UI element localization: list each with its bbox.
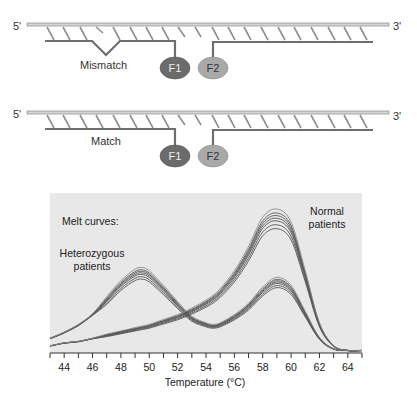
f1-label: F1 — [169, 62, 182, 74]
x-tick-label: 50 — [143, 361, 155, 373]
three-prime-label: 3' — [393, 110, 401, 122]
normal-annotation-line1: Normal — [310, 205, 344, 217]
x-tick-label: 46 — [87, 361, 99, 373]
mismatch-label: Mismatch — [80, 59, 127, 71]
x-tick-label: 48 — [115, 361, 127, 373]
three-prime-label: 3' — [393, 20, 401, 32]
match-label: Match — [91, 135, 121, 147]
x-tick-label: 62 — [314, 361, 326, 373]
melt-curve-svg: 4446485052545658606264 Melt curves: Hete… — [0, 175, 417, 405]
x-tick-label: 52 — [172, 361, 184, 373]
x-tick-label: 44 — [58, 361, 70, 373]
base-pair-hatches — [47, 27, 367, 40]
f2-label: F2 — [207, 150, 220, 162]
normal-annotation-line2: patients — [309, 218, 346, 230]
target-strand — [27, 23, 389, 26]
probe-strand-1-with-mismatch — [45, 41, 175, 57]
probe-strand-2 — [213, 42, 373, 57]
base-pair-hatches — [47, 115, 367, 128]
x-axis-label: Temperature (°C) — [165, 376, 246, 388]
x-tick-label: 58 — [257, 361, 269, 373]
x-tick-label: 60 — [285, 361, 297, 373]
heterozygous-annotation-line1: Heterozygous — [60, 247, 125, 259]
mismatch-strand-svg: 5' 3' Mismatch F1 F2 — [0, 0, 417, 100]
probe-strand-2 — [213, 130, 373, 145]
f1-label: F1 — [169, 150, 182, 162]
five-prime-label: 5' — [13, 108, 21, 120]
x-tick-label: 54 — [200, 361, 212, 373]
match-strand-svg: 5' 3' Match F1 F2 — [0, 95, 417, 175]
x-axis-ticks: 4446485052545658606264 — [50, 353, 362, 373]
f2-label: F2 — [207, 62, 220, 74]
x-tick-label: 64 — [342, 361, 354, 373]
melt-curve-chart: 4446485052545658606264 Melt curves: Hete… — [0, 175, 417, 405]
melt-curves-annotation: Melt curves: — [62, 215, 119, 227]
x-tick-label: 56 — [229, 361, 241, 373]
match-diagram: 5' 3' Match F1 F2 — [0, 95, 417, 175]
heterozygous-annotation-line2: patients — [74, 260, 111, 272]
mismatch-diagram: 5' 3' Mismatch F1 F2 — [0, 0, 417, 100]
target-strand — [27, 111, 389, 114]
five-prime-label: 5' — [13, 20, 21, 32]
